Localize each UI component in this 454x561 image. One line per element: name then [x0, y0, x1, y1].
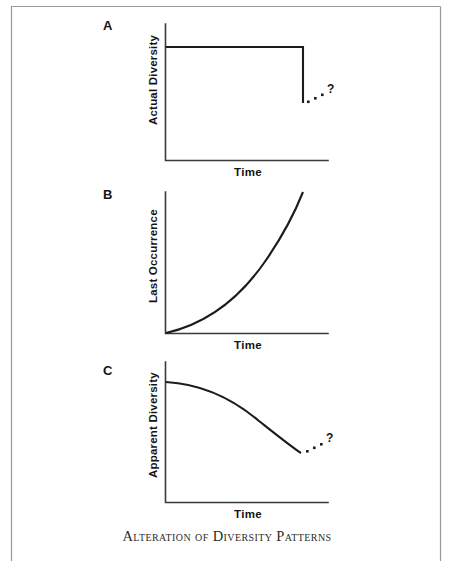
panel-c-question-mark: ? [326, 431, 333, 445]
panel-c-x-axis-label: Time [234, 508, 262, 520]
panel-a-dotted-trail [307, 94, 324, 104]
figure-caption: Alteration of Diversity Patterns [123, 528, 332, 544]
panel-b-y-axis-label: Last Occurrence [147, 209, 159, 303]
panel-c-curve-apparent-diversity [166, 382, 301, 453]
panel-b-axes [166, 192, 329, 334]
panel-a-letter: A [103, 18, 113, 33]
panel-b-x-axis-label: Time [234, 339, 262, 351]
panel-b-letter: B [103, 187, 112, 202]
panel-c-y-axis-label: Apparent Diversity [147, 372, 159, 478]
panel-c-axes [166, 362, 329, 503]
caption-container: Alteration of Diversity Patterns [0, 527, 454, 545]
figure-border [12, 7, 441, 561]
panel-a-curve-actual-diversity [166, 47, 303, 103]
panel-a: A ? Actual Diversity Time [103, 18, 334, 178]
panel-b: B Last Occurrence Time [103, 187, 328, 351]
panel-c-letter: C [103, 363, 113, 378]
panel-c: C ? Apparent Diversity Time [103, 362, 333, 520]
panel-a-x-axis-label: Time [234, 166, 262, 178]
panel-c-dotted-trail [306, 443, 323, 453]
panel-b-curve-last-occurrence [166, 192, 303, 333]
figure-container: A ? Actual Diversity Time B Last Occurre… [0, 0, 454, 561]
panel-a-y-axis-label: Actual Diversity [147, 34, 159, 125]
panel-a-question-mark: ? [327, 82, 334, 96]
diversity-patterns-figure: A ? Actual Diversity Time B Last Occurre… [0, 0, 454, 561]
